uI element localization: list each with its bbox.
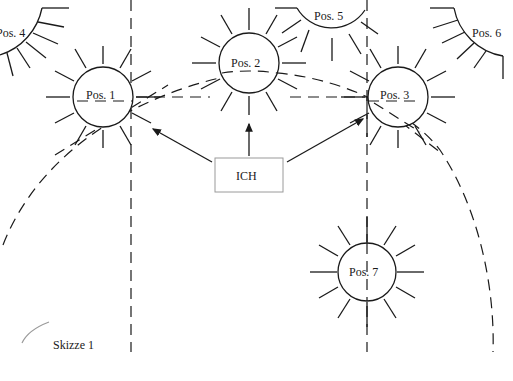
position-1: Pos. 1 xyxy=(46,46,160,148)
position-5: Pos. 5 xyxy=(275,8,378,61)
pos2-label: Pos. 2 xyxy=(231,56,260,70)
pos5-label: Pos. 5 xyxy=(314,9,343,23)
position-7: Pos. 7 xyxy=(310,217,424,327)
position-3: Pos. 3 xyxy=(341,46,455,148)
position-6: Pos. 6 xyxy=(430,8,503,79)
pos4-label: Pos. 4 xyxy=(0,26,25,40)
ich-label: ICH xyxy=(236,169,257,183)
pos7-label: Pos. 7 xyxy=(349,265,378,279)
ich-box: ICH xyxy=(215,158,283,192)
position-4: Pos. 4 xyxy=(0,8,69,76)
caption-skizze: Skizze 1 xyxy=(53,338,94,352)
pos1-label: Pos. 1 xyxy=(86,88,115,102)
arrow-ich-to-pos1 xyxy=(153,129,212,162)
position-2: Pos. 2 xyxy=(192,8,306,115)
pencil-mark xyxy=(22,322,49,343)
arrow-ich-to-pos3 xyxy=(287,119,363,162)
pos3-label: Pos. 3 xyxy=(380,88,409,102)
skizze-diagram: Pos. 4 Pos. 5 Pos. 6 Pos. 1 xyxy=(0,0,513,381)
pos6-label: Pos. 6 xyxy=(472,26,501,40)
